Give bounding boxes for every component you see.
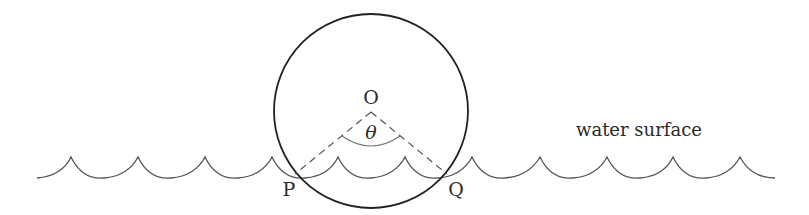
label-center-O: O <box>363 86 379 108</box>
label-angle-theta: θ <box>365 121 377 143</box>
water-surface-wave <box>37 157 775 178</box>
label-water-surface: water surface <box>576 119 702 140</box>
label-point-Q: Q <box>448 178 464 200</box>
diagram-canvas: O θ P Q water surface <box>0 0 809 215</box>
label-point-P: P <box>283 178 296 200</box>
floating-circle <box>274 14 468 208</box>
